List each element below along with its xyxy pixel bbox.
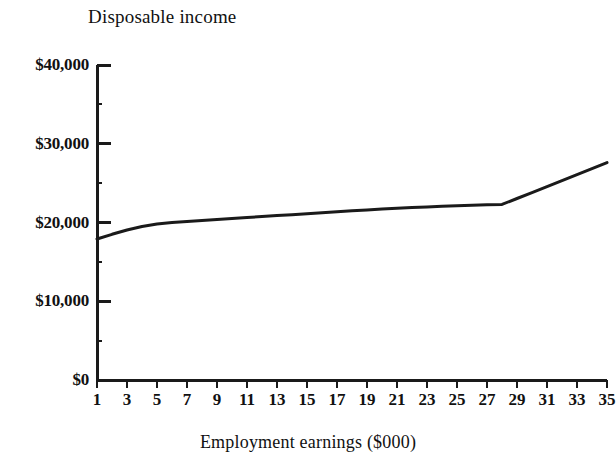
data-line-disposable-income (97, 163, 607, 239)
axes (97, 65, 607, 388)
x-axis-title: Employment earnings ($000) (0, 432, 616, 453)
data-series (97, 163, 607, 239)
plot-area (0, 0, 616, 466)
chart-figure: Disposable income $40,000$30,000$20,000$… (0, 0, 616, 466)
